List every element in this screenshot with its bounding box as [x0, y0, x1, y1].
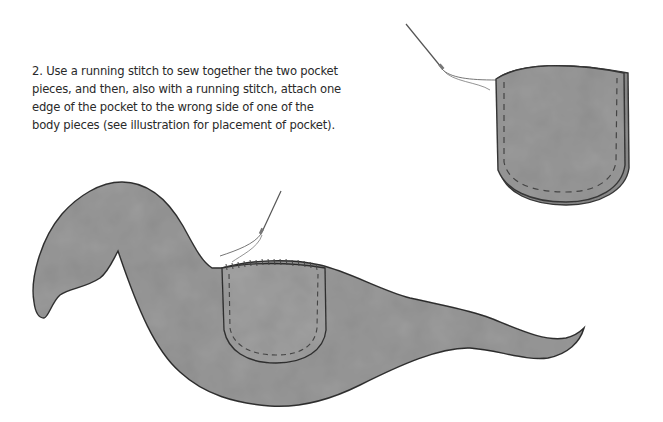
needle-icon — [406, 24, 441, 67]
thread-icon — [220, 234, 261, 256]
thread-icon — [442, 69, 496, 80]
pocket-illustration — [406, 24, 629, 205]
body-illustration — [33, 182, 584, 406]
needle-icon — [262, 191, 281, 232]
attached-pocket — [222, 264, 326, 364]
illustration-canvas — [0, 0, 663, 422]
